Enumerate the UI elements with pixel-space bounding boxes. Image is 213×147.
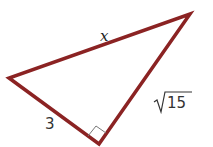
leg-right-label: 15 <box>154 92 192 112</box>
hypotenuse-label: x <box>100 27 109 45</box>
triangle-diagram: x 3 15 <box>0 0 213 147</box>
right-angle-marker <box>88 126 106 136</box>
svg-text:15: 15 <box>167 94 186 112</box>
leg-left-label: 3 <box>45 115 55 133</box>
